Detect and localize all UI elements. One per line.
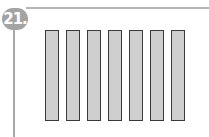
unit-bar — [108, 30, 122, 121]
unit-bar — [45, 30, 59, 121]
problem-number-badge: 21. — [2, 8, 28, 30]
bar-group — [45, 30, 185, 121]
unit-bar — [129, 30, 143, 121]
unit-bar — [66, 30, 80, 121]
frame-top-line — [26, 7, 209, 9]
unit-bar — [150, 30, 164, 121]
unit-bar — [171, 30, 185, 121]
unit-bar — [87, 30, 101, 121]
frame-side-line — [13, 26, 15, 137]
